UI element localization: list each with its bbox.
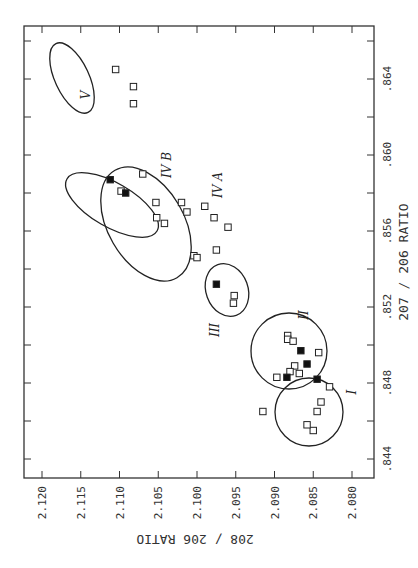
open-square-point [290,338,296,344]
open-square-point [178,199,184,205]
axis-ticks [24,26,374,478]
x-tick-label: .844 [381,445,394,472]
y-tick-label: 2.095 [230,486,243,519]
x-tick-label: .856 [381,218,394,245]
open-square-point [315,349,321,355]
x-tick-label: .864 [381,65,394,92]
open-square-point [230,300,236,306]
y-axis-title: 208 / 206 RATIO [136,532,254,547]
filled-square-point [304,361,310,367]
open-square-point [112,66,118,72]
filled-square-point [314,376,320,382]
open-square-point [140,171,146,177]
open-square-point [314,408,320,414]
x-tick-label: .860 [381,142,394,169]
open-square-point [231,292,237,298]
y-tick-labels: 2.1202.1152.1102.1052.1002.0952.0902.085… [36,486,359,519]
y-tick-label: 2.080 [346,486,359,519]
open-square-point [274,374,280,380]
open-square-point [194,254,200,260]
y-tick-label: 2.115 [75,486,88,519]
open-square-point [211,215,217,221]
x-tick-labels: .844.848.852.856.860.864 [381,65,394,472]
y-tick-label: 2.120 [36,486,49,519]
y-tick-label: 2.100 [191,486,204,519]
label-group-ii: II [297,310,311,321]
open-square-point [184,209,190,215]
y-tick-label: 2.105 [152,486,165,519]
x-tick-label: .852 [381,294,394,321]
data-points [107,66,333,433]
filled-square-point [213,281,219,287]
open-square-point [304,422,310,428]
x-tick-label: .848 [381,370,394,397]
label-group-iii: III [208,323,222,338]
filled-square-point [284,374,290,380]
label-group-iva: IV A [211,172,225,199]
filled-square-point [298,348,304,354]
open-square-point [130,83,136,89]
filled-square-point [123,190,129,196]
open-square-point [225,224,231,230]
ellipse-group-v [41,36,104,119]
open-square-point [296,370,302,376]
open-square-point [202,203,208,209]
open-square-point [310,427,316,433]
open-square-point [153,199,159,205]
open-square-point [260,408,266,414]
open-square-point [318,399,324,405]
x-axis-title: 207 / 206 RATIO [396,203,411,321]
label-group-v: V [79,89,93,99]
open-square-point [213,247,219,253]
open-square-point [154,215,160,221]
y-tick-label: 2.110 [114,486,127,519]
open-square-point [161,220,167,226]
plot-frame [24,26,374,478]
label-group-ivb: IV B [160,152,174,179]
label-group-i: I [345,389,359,395]
open-square-point [130,101,136,107]
chart: 2.1202.1152.1102.1052.1002.0952.0902.085… [0,0,418,568]
ellipse-group-ivb [56,160,168,250]
ellipse-group-iii [198,257,256,322]
y-tick-label: 2.090 [269,486,282,519]
y-tick-label: 2.085 [307,486,320,519]
filled-square-point [107,177,113,183]
open-square-point [326,384,332,390]
